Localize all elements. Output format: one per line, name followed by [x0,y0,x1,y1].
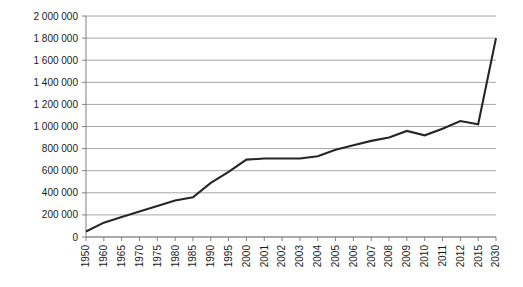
x-axis-label: 1975 [152,245,163,268]
x-axis-label: 1985 [187,245,198,268]
x-axis-label: 1960 [98,245,109,268]
x-axis-label: 2007 [366,245,377,268]
x-axis-label: 2015 [473,245,484,268]
y-axis-label: 1 600 000 [34,55,79,66]
x-axis-label: 2005 [330,245,341,268]
x-axis-label: 1965 [116,245,127,268]
line-chart: 0200 000400 000600 000800 0001 000 0001 … [0,0,523,287]
x-axis-label: 2008 [383,245,394,268]
x-axis-label: 2002 [276,245,287,268]
y-axis-label: 1 200 000 [34,99,79,110]
x-axis-label: 1990 [205,245,216,268]
x-axis-label: 2030 [490,245,501,268]
x-axis-label: 2003 [294,245,305,268]
y-axis-label: 1 000 000 [34,121,79,132]
y-axis-label: 0 [72,232,78,243]
x-axis-label: 2001 [259,245,270,268]
x-axis-label: 1970 [134,245,145,268]
y-axis-label: 1 800 000 [34,33,79,44]
x-axis-label: 2009 [401,245,412,268]
x-axis-label: 2011 [437,245,448,267]
y-axis-label: 2 000 000 [34,11,79,22]
x-axis-label: 2004 [312,245,323,268]
y-axis-label: 1 400 000 [34,77,79,88]
y-axis-label: 400 000 [42,187,79,198]
y-axis-label: 800 000 [42,143,79,154]
chart-background [0,0,523,287]
y-axis-label: 600 000 [42,165,79,176]
x-axis-label: 1950 [80,245,91,268]
y-axis-label: 200 000 [42,209,79,220]
x-axis-label: 2010 [419,245,430,268]
x-axis-label: 2012 [455,245,466,268]
x-axis-label: 1980 [170,245,181,268]
x-axis-label: 2000 [241,245,252,268]
x-axis-label: 2006 [348,245,359,268]
x-axis-label: 1995 [223,245,234,268]
chart-container: 0200 000400 000600 000800 0001 000 0001 … [0,0,523,287]
